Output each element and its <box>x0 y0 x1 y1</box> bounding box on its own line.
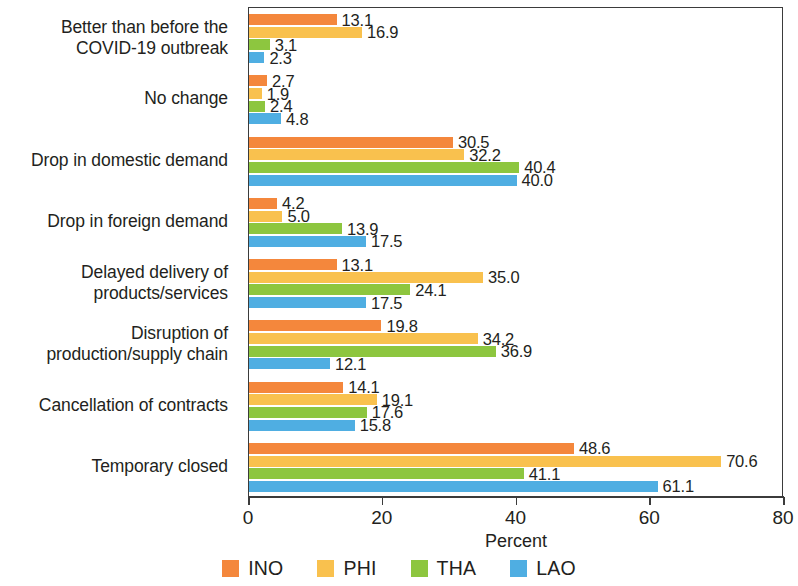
bar-value-label: 13.1 <box>342 257 373 274</box>
bar-value-label: 2.3 <box>269 50 291 67</box>
bar-value-label: 41.1 <box>529 466 560 483</box>
legend-swatch-icon <box>317 560 334 577</box>
category-label: Better than before theCOVID-19 outbreak <box>0 17 228 59</box>
bar-value-label: 12.1 <box>335 356 366 373</box>
bar <box>249 333 478 344</box>
bar-value-label: 16.9 <box>367 24 398 41</box>
bar-value-label: 24.1 <box>415 282 446 299</box>
bar <box>249 88 262 99</box>
bar <box>249 420 355 431</box>
bar <box>249 39 270 50</box>
bar <box>249 481 658 492</box>
bar <box>249 394 377 405</box>
bar <box>249 52 264 63</box>
legend-item[interactable]: THA <box>411 558 477 579</box>
x-axis-tick-label: 0 <box>243 507 254 529</box>
category-label: Drop in domestic demand <box>0 150 228 171</box>
bar <box>249 443 574 454</box>
x-axis-tick-label: 40 <box>505 507 526 529</box>
legend-swatch-icon <box>510 560 527 577</box>
x-axis-tick <box>649 497 651 505</box>
bar <box>249 211 282 222</box>
x-axis-tick-label: 80 <box>772 507 793 529</box>
bar <box>249 101 265 112</box>
x-axis-tick-label: 60 <box>639 507 660 529</box>
bar <box>249 137 453 148</box>
bar <box>249 272 483 283</box>
legend-label: THA <box>437 558 477 579</box>
bar-value-label: 19.8 <box>386 318 417 335</box>
category-label: Temporary closed <box>0 456 228 477</box>
bar-value-label: 48.6 <box>579 440 610 457</box>
x-axis-tick-label: 20 <box>371 507 392 529</box>
bar <box>249 407 367 418</box>
legend-item[interactable]: INO <box>222 558 283 579</box>
x-axis-tick <box>516 497 518 505</box>
category-label: Disruption ofproduction/supply chain <box>0 323 228 365</box>
bar <box>249 113 281 124</box>
bar-value-label: 32.2 <box>469 147 500 164</box>
category-label: Drop in foreign demand <box>0 211 228 232</box>
bar-value-label: 14.1 <box>348 379 379 396</box>
bar-value-label: 61.1 <box>663 478 694 495</box>
bar-value-label: 36.9 <box>501 343 532 360</box>
bar-chart: Better than before theCOVID-19 outbreakN… <box>0 0 798 586</box>
x-axis-tick <box>783 497 785 505</box>
bar <box>249 358 330 369</box>
bar-value-label: 70.6 <box>726 453 757 470</box>
bar <box>249 75 267 86</box>
category-axis-labels: Better than before theCOVID-19 outbreakN… <box>0 7 238 497</box>
bar <box>249 223 342 234</box>
bar <box>249 259 337 270</box>
bar-value-label: 35.0 <box>488 269 519 286</box>
category-label: Cancellation of contracts <box>0 395 228 416</box>
legend-swatch-icon <box>222 560 239 577</box>
category-label: Delayed delivery ofproducts/services <box>0 262 228 304</box>
chart-legend: INOPHITHALAO <box>0 558 798 579</box>
x-axis-title: Percent <box>248 531 784 552</box>
bar-value-label: 40.0 <box>522 172 553 189</box>
bar <box>249 149 464 160</box>
legend-item[interactable]: LAO <box>510 558 576 579</box>
bar-value-label: 17.5 <box>371 295 402 312</box>
bar-value-label: 15.8 <box>360 417 391 434</box>
bar <box>249 456 721 467</box>
bar-value-label: 5.0 <box>287 208 309 225</box>
legend-swatch-icon <box>411 560 428 577</box>
legend-label: LAO <box>536 558 576 579</box>
bar <box>249 320 381 331</box>
x-axis-tick <box>248 497 250 505</box>
bar <box>249 297 366 308</box>
bar <box>249 175 517 186</box>
bar <box>249 382 343 393</box>
legend-label: INO <box>248 558 283 579</box>
plot-area: 13.116.93.12.32.71.92.44.830.532.240.440… <box>248 7 783 497</box>
bar <box>249 162 519 173</box>
bar <box>249 346 496 357</box>
bar <box>249 27 362 38</box>
bar-value-label: 4.8 <box>286 111 308 128</box>
category-label: No change <box>0 88 228 109</box>
bar <box>249 468 524 479</box>
bar-value-label: 17.5 <box>371 233 402 250</box>
x-axis-tick <box>382 497 384 505</box>
legend-item[interactable]: PHI <box>317 558 376 579</box>
bar <box>249 198 277 209</box>
bar <box>249 14 337 25</box>
bar <box>249 236 366 247</box>
legend-label: PHI <box>343 558 376 579</box>
